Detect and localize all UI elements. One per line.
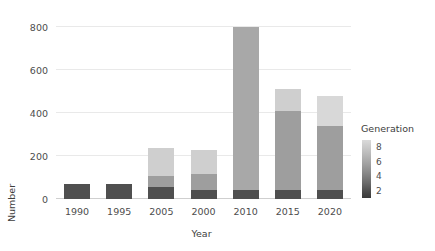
bar-segment[interactable] (317, 190, 343, 199)
bar-segment[interactable] (317, 96, 343, 126)
gridline (56, 26, 351, 27)
x-axis-tick-label: 2020 (303, 206, 357, 217)
bar-segment[interactable] (317, 126, 343, 191)
bar-segment[interactable] (106, 184, 132, 200)
x-axis-title: Year (0, 228, 403, 239)
y-axis-title: Number (6, 184, 17, 222)
legend-tick-label: 4 (376, 171, 382, 181)
bar[interactable] (317, 96, 343, 199)
bar-segment[interactable] (148, 148, 174, 176)
y-axis-tick-label: 800 (0, 21, 48, 32)
bar-segment[interactable] (275, 190, 301, 199)
bar-segment[interactable] (191, 150, 217, 174)
bar[interactable] (233, 27, 259, 199)
bar-segment[interactable] (275, 111, 301, 190)
bar[interactable] (64, 184, 90, 200)
bar[interactable] (275, 89, 301, 199)
bar-segment[interactable] (275, 89, 301, 111)
bar[interactable] (106, 184, 132, 200)
y-axis-tick-label: 400 (0, 107, 48, 118)
bar-segment[interactable] (191, 174, 217, 190)
legend-tick-label: 2 (376, 186, 382, 196)
plot-area (56, 18, 351, 199)
bar-segment[interactable] (64, 184, 90, 200)
bar-segment[interactable] (191, 190, 217, 199)
legend-colorbar-wrap: 8642 (361, 140, 431, 198)
bar[interactable] (148, 148, 174, 199)
y-axis-title-host: Number (14, 108, 15, 109)
legend-title: Generation (361, 123, 435, 134)
bar-segment[interactable] (148, 187, 174, 199)
legend-colorbar (362, 140, 371, 198)
legend-tick-label: 6 (376, 157, 382, 167)
bar-segment[interactable] (233, 27, 259, 191)
y-axis-tick-label: 200 (0, 150, 48, 161)
y-axis-tick-label: 600 (0, 64, 48, 75)
bar-segment[interactable] (148, 176, 174, 186)
gridline (56, 112, 351, 113)
legend: Generation 8642 (361, 123, 435, 198)
bar[interactable] (191, 150, 217, 199)
stacked-bar-chart: 0200400600800 Number 1990199520052000201… (0, 0, 435, 251)
gridline (56, 69, 351, 70)
bar-segment[interactable] (233, 190, 259, 199)
legend-tick-label: 8 (376, 142, 382, 152)
